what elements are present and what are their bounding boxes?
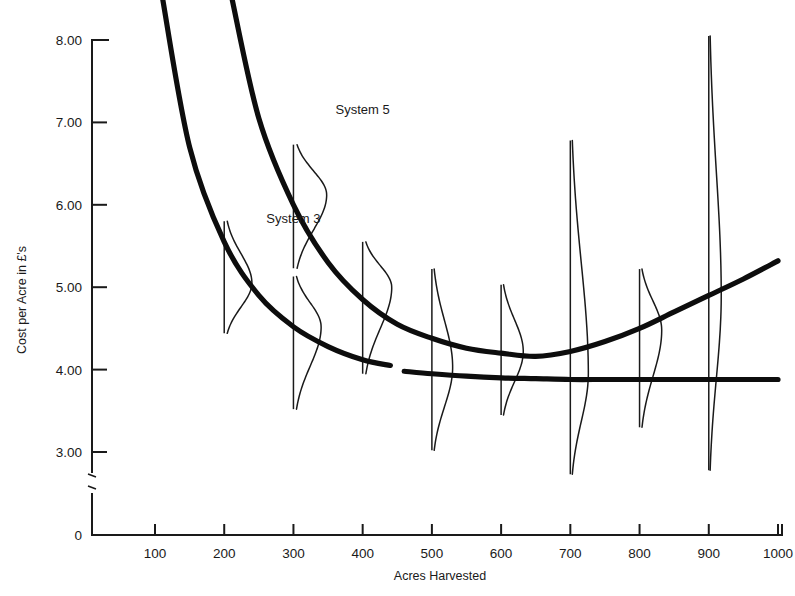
distribution-curve [434, 269, 452, 450]
x-tick-label: 1000 [763, 546, 793, 561]
y-tick-label: 6.00 [56, 198, 82, 213]
x-tick-label: 700 [559, 546, 582, 561]
distribution-curve [710, 36, 721, 470]
x-tick-label: 900 [698, 546, 721, 561]
distribution-curve [227, 221, 252, 333]
chart-canvas: 03.004.005.006.007.008.00100200300400500… [0, 0, 795, 596]
y-tick-label: 4.00 [56, 363, 82, 378]
trend-curve-system-3 [162, 0, 390, 365]
y-tick-label: 5.00 [56, 280, 82, 295]
x-tick-label: 800 [628, 546, 651, 561]
y-tick-label: 0 [74, 528, 82, 543]
distribution-curve [572, 141, 588, 475]
trend-curve-system-5 [231, 0, 778, 356]
x-tick-label: 300 [282, 546, 305, 561]
trend-curve-system-3 [404, 371, 778, 379]
series-label-system-3: System 3 [266, 211, 320, 226]
distribution-curve [642, 269, 662, 427]
distribution-curves [224, 36, 721, 474]
y-tick-label: 7.00 [56, 115, 82, 130]
axes: 03.004.005.006.007.008.00100200300400500… [56, 33, 793, 561]
y-tick-label: 8.00 [56, 33, 82, 48]
chart-labels: Cost per Acre in £'sAcres HarvestedSyste… [15, 102, 486, 583]
series-label-system-5: System 5 [336, 102, 390, 117]
x-tick-label: 200 [213, 546, 236, 561]
y-axis-title: Cost per Acre in £'s [15, 246, 29, 354]
x-tick-label: 600 [490, 546, 513, 561]
trend-curves [162, 0, 778, 380]
x-tick-label: 400 [351, 546, 374, 561]
x-axis-title: Acres Harvested [394, 569, 486, 583]
chart-figure: 03.004.005.006.007.008.00100200300400500… [0, 0, 795, 596]
x-tick-label: 500 [421, 546, 444, 561]
x-tick-label: 100 [144, 546, 167, 561]
distribution-curve [504, 285, 524, 415]
y-tick-label: 3.00 [56, 445, 82, 460]
